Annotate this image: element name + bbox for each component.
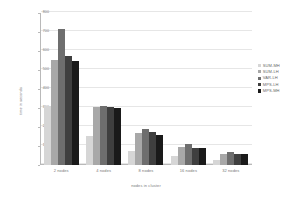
legend-item[interactable]: MPS-MH	[258, 89, 280, 94]
gridline	[41, 11, 252, 12]
bar	[192, 148, 199, 165]
bar	[65, 56, 72, 165]
bar	[51, 60, 58, 165]
legend-swatch-icon	[258, 77, 261, 80]
bar	[107, 107, 114, 165]
legend-swatch-icon	[258, 89, 261, 92]
bar	[149, 132, 156, 165]
bar	[114, 108, 121, 165]
bar-group	[44, 13, 79, 165]
bar	[178, 147, 185, 165]
bar	[185, 144, 192, 165]
bar	[156, 135, 163, 165]
bar	[93, 107, 100, 165]
bar	[213, 160, 220, 165]
legend-swatch-icon	[258, 83, 261, 86]
bar	[220, 154, 227, 165]
bar	[135, 133, 142, 165]
legend-label: VAR-LH	[263, 76, 278, 80]
bar	[199, 148, 206, 165]
bar	[234, 154, 241, 165]
bar	[142, 129, 149, 165]
bar	[100, 106, 107, 165]
bar	[128, 151, 135, 165]
bar-group	[213, 13, 248, 165]
bar	[241, 154, 248, 165]
bar	[72, 61, 79, 165]
bar-group	[128, 13, 163, 165]
x-tick-label: 8 nodes	[139, 168, 154, 173]
x-tick-label: 2 nodes	[54, 168, 69, 173]
x-tick-label: 4 nodes	[96, 168, 111, 173]
legend-item[interactable]: SUM-LH	[258, 69, 280, 74]
bar	[44, 106, 51, 165]
bar	[86, 136, 93, 165]
y-tick-mark	[38, 165, 40, 166]
bar-chart-figure: 0100200300400500600700800 time in second…	[0, 0, 304, 201]
legend-swatch-icon	[258, 64, 261, 67]
legend-item[interactable]: VAR-LH	[258, 76, 280, 81]
x-tick-label: 32 nodes	[222, 168, 239, 173]
legend-label: SUM-MH	[263, 64, 280, 68]
chart-legend: SUM-MHSUM-LHVAR-LHMPS-LHMPS-MH	[258, 63, 280, 94]
x-axis-title: nodes in cluster	[131, 183, 161, 188]
bar	[58, 29, 65, 165]
legend-swatch-icon	[258, 70, 261, 73]
legend-label: SUM-LH	[263, 70, 279, 74]
bar	[171, 156, 178, 165]
x-tick-label: 16 nodes	[180, 168, 197, 173]
bar-groups	[40, 13, 252, 165]
legend-label: MPS-LH	[263, 83, 279, 87]
y-axis-title: time in seconds	[19, 87, 23, 115]
bar	[227, 152, 234, 165]
bar-group	[171, 13, 206, 165]
legend-item[interactable]: SUM-MH	[258, 63, 280, 68]
legend-item[interactable]: MPS-LH	[258, 82, 280, 87]
legend-label: MPS-MH	[263, 89, 280, 93]
bar-group	[86, 13, 121, 165]
